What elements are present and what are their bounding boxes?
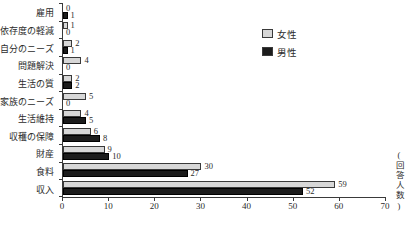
- y-axis-tick: [59, 38, 62, 39]
- value-label: 59: [338, 180, 347, 189]
- legend-label: 女性: [277, 27, 297, 41]
- male-bar: [63, 12, 68, 19]
- category-label: 自分のニーズ: [0, 42, 54, 55]
- value-label: 5: [89, 92, 93, 101]
- y-axis-tick: [59, 179, 62, 180]
- legend-item: 男性: [262, 46, 297, 57]
- female-bar: [63, 110, 81, 117]
- value-label: 1: [71, 21, 75, 30]
- female-bar: [63, 163, 201, 170]
- y-axis-tick: [59, 91, 62, 92]
- x-axis-tick-label: 40: [235, 201, 259, 211]
- value-label: 4: [84, 56, 88, 65]
- y-axis-tick: [59, 109, 62, 110]
- legend-label: 男性: [277, 45, 297, 59]
- legend-swatch: [262, 47, 273, 56]
- value-label: 10: [112, 152, 121, 161]
- value-label: 5: [89, 116, 93, 125]
- value-label: 2: [75, 81, 79, 90]
- y-axis-tick: [59, 162, 62, 163]
- female-bar: [63, 128, 91, 135]
- value-label: 2: [75, 39, 79, 48]
- x-axis-tick-label: 50: [281, 201, 305, 211]
- category-axis-labels: 雇用依存度の軽減自分のニーズ問題解決生活の質家族のニーズ生活維持収穫の保障財産食…: [0, 3, 58, 197]
- female-bar: [63, 146, 105, 153]
- bar-chart: 雇用依存度の軽減自分のニーズ問題解決生活の質家族のニーズ生活維持収穫の保障財産食…: [0, 0, 410, 230]
- value-label: 8: [103, 134, 107, 143]
- y-axis-tick: [59, 126, 62, 127]
- category-label: 生活の質: [0, 77, 54, 90]
- category-label: 収穫の保障: [0, 130, 54, 143]
- x-axis-tick-label: 60: [327, 201, 351, 211]
- male-bar: [63, 82, 72, 89]
- legend: 女性男性: [262, 28, 297, 64]
- value-label: 27: [191, 169, 200, 178]
- y-axis-tick: [59, 196, 62, 197]
- male-bar: [63, 188, 303, 195]
- category-label: 収入: [0, 183, 54, 196]
- y-axis-tick: [59, 56, 62, 57]
- value-label: 0: [66, 28, 70, 37]
- category-label: 財産: [0, 147, 54, 160]
- y-axis-tick: [59, 74, 62, 75]
- x-axis-tick-label: 10: [96, 201, 120, 211]
- value-label: 1: [71, 11, 75, 20]
- x-axis-tick-label: 30: [188, 201, 212, 211]
- category-label: 雇用: [0, 6, 54, 19]
- category-label: 生活維持: [0, 112, 54, 125]
- female-bar: [63, 75, 72, 82]
- x-axis-tick-label: 0: [50, 201, 74, 211]
- y-axis-tick: [59, 21, 62, 22]
- y-axis-tick: [59, 144, 62, 145]
- male-bar: [63, 153, 109, 160]
- value-label: 52: [306, 187, 315, 196]
- y-axis-tick: [59, 3, 62, 4]
- x-axis-tick-label: 20: [142, 201, 166, 211]
- legend-swatch: [262, 29, 273, 38]
- male-bar: [63, 135, 100, 142]
- value-label: 30: [204, 162, 213, 171]
- value-label: 0: [66, 99, 70, 108]
- legend-item: 女性: [262, 28, 297, 39]
- plot-area: 012425469305910102058102752: [62, 3, 386, 198]
- category-label: 依存度の軽減: [0, 24, 54, 37]
- category-label: 食料: [0, 165, 54, 178]
- male-bar: [63, 170, 188, 177]
- female-bar: [63, 181, 335, 188]
- x-axis-title: (回答人数): [393, 150, 405, 212]
- male-bar: [63, 47, 68, 54]
- value-label: 0: [66, 63, 70, 72]
- category-label: 家族のニーズ: [0, 95, 54, 108]
- category-label: 問題解決: [0, 59, 54, 72]
- value-label: 1: [71, 46, 75, 55]
- male-bar: [63, 117, 86, 124]
